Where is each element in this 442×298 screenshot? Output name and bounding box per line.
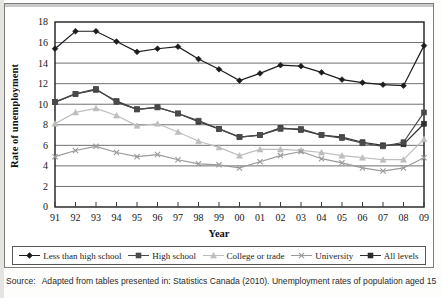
- data-point-marker: [422, 121, 427, 126]
- data-point-marker: [155, 105, 160, 110]
- data-point-marker: [421, 136, 427, 142]
- data-point-marker: [196, 138, 202, 144]
- legend-marker-x-icon: [291, 251, 312, 260]
- x-axis-tick-label: 94: [112, 212, 122, 223]
- data-point-marker: [196, 118, 201, 123]
- data-point-marker: [380, 82, 386, 88]
- data-point-marker: [27, 253, 33, 259]
- legend-item-all-levels[interactable]: All levels: [360, 251, 419, 261]
- data-point-marker: [217, 126, 222, 131]
- source-note: Source: Adapted from tables presented in…: [6, 276, 442, 286]
- data-point-marker: [319, 69, 325, 75]
- data-point-marker: [93, 28, 99, 34]
- y-axis-tick-label: 14: [38, 58, 48, 69]
- y-axis-tick-label: 4: [43, 160, 48, 171]
- x-axis-tick-label: 93: [91, 212, 101, 223]
- legend-marker-square-icon: [360, 251, 381, 260]
- series-high-school: [53, 86, 427, 149]
- data-point-marker: [93, 105, 99, 111]
- y-axis-tick-label: 18: [38, 16, 48, 27]
- data-point-marker: [368, 253, 373, 258]
- data-point-marker: [421, 43, 427, 49]
- source-text: Adapted from tables presented in: Statis…: [42, 276, 437, 286]
- legend-marker-triangle-icon: [203, 251, 224, 260]
- data-point-marker: [175, 44, 181, 50]
- data-point-marker: [360, 141, 365, 146]
- x-axis-tick-label: 97: [173, 212, 183, 223]
- data-point-marker: [135, 107, 140, 112]
- data-point-marker: [278, 126, 283, 131]
- series-college-or-trade: [52, 105, 427, 162]
- y-axis-tick-label: 16: [38, 37, 48, 48]
- data-point-marker: [134, 49, 140, 55]
- chart-container: Rate of unemployment 0246810121416189192…: [4, 3, 434, 241]
- data-point-marker: [176, 111, 181, 116]
- legend-label: High school: [152, 251, 196, 261]
- x-axis-tick-label: 08: [399, 212, 409, 223]
- legend-marker-diamond-icon: [19, 251, 40, 260]
- chart-legend: Less than high schoolHigh schoolCollege …: [12, 246, 426, 265]
- y-axis-tick-label: 8: [43, 119, 48, 130]
- legend-item-high-school[interactable]: High school: [128, 251, 196, 261]
- x-axis-tick-label: 02: [276, 212, 286, 223]
- x-axis-tick-label: 95: [132, 212, 142, 223]
- line-chart-plot: 0246810121416189192939495969798990001020…: [4, 3, 434, 241]
- data-point-marker: [237, 78, 243, 84]
- legend-item-college-or-trade[interactable]: College or trade: [203, 251, 285, 261]
- x-axis-tick-label: 92: [71, 212, 81, 223]
- x-axis-tick-label: 00: [235, 212, 245, 223]
- data-point-marker: [210, 253, 216, 259]
- legend-marker-square-icon: [128, 251, 149, 260]
- data-point-marker: [381, 144, 386, 149]
- y-axis-tick-label: 6: [43, 140, 48, 151]
- data-point-marker: [196, 56, 202, 62]
- y-axis-tick-label: 2: [43, 181, 48, 192]
- legend-label: University: [315, 251, 353, 261]
- data-point-marker: [299, 126, 304, 131]
- data-point-marker: [52, 121, 58, 127]
- x-axis-tick-label: 96: [153, 212, 163, 223]
- data-point-marker: [340, 136, 345, 141]
- y-axis-tick-label: 0: [43, 201, 48, 212]
- source-label: Source:: [6, 276, 36, 286]
- x-axis-title: Year: [4, 228, 434, 239]
- x-axis-tick-label: 03: [296, 212, 306, 223]
- data-point-marker: [360, 80, 366, 86]
- data-point-marker: [257, 70, 263, 76]
- y-axis-tick-label: 12: [38, 78, 48, 89]
- legend-label: College or trade: [227, 251, 285, 261]
- data-point-marker: [155, 46, 161, 52]
- data-point-marker: [422, 110, 427, 115]
- data-point-marker: [298, 63, 304, 69]
- x-axis-tick-label: 99: [214, 212, 224, 223]
- x-axis-tick-label: 06: [358, 212, 368, 223]
- data-point-marker: [114, 39, 120, 45]
- data-point-marker: [73, 91, 78, 96]
- x-axis-tick-label: 07: [378, 212, 388, 223]
- data-point-marker: [339, 77, 345, 83]
- data-point-marker: [401, 140, 406, 145]
- x-axis-tick-label: 91: [50, 212, 60, 223]
- legend-item-university[interactable]: University: [291, 251, 353, 261]
- x-axis-tick-label: 09: [419, 212, 429, 223]
- x-axis-tick-label: 01: [255, 212, 265, 223]
- x-axis-tick-label: 05: [337, 212, 347, 223]
- x-axis-tick-label: 04: [317, 212, 327, 223]
- data-point-marker: [136, 253, 141, 258]
- data-point-marker: [114, 100, 119, 105]
- data-point-marker: [94, 86, 99, 91]
- data-point-marker: [216, 66, 222, 72]
- series-less-than-high-school: [52, 28, 427, 88]
- legend-item-less-than-high-school[interactable]: Less than high school: [19, 251, 121, 261]
- data-point-marker: [258, 133, 263, 138]
- y-axis-tick-label: 10: [38, 99, 48, 110]
- legend-label: Less than high school: [43, 251, 121, 261]
- x-axis-tick-label: 98: [194, 212, 204, 223]
- legend-label: All levels: [384, 251, 419, 261]
- figure-page: Rate of unemployment 0246810121416189192…: [0, 0, 442, 298]
- data-point-marker: [53, 100, 58, 105]
- data-point-marker: [319, 133, 324, 138]
- data-point-marker: [237, 135, 242, 140]
- data-point-marker: [299, 253, 304, 258]
